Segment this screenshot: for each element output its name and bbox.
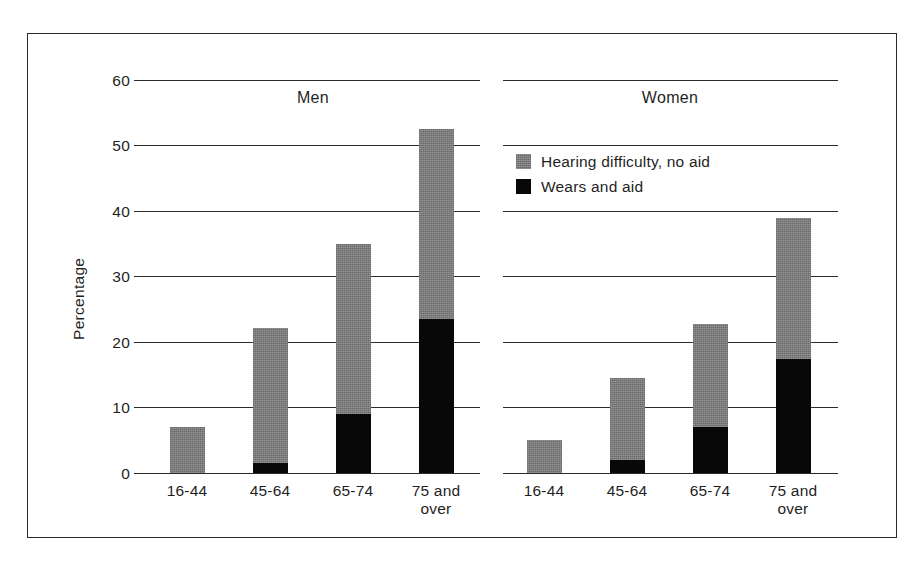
bar-women-65-74 (693, 324, 728, 473)
ytick-stub-30 (134, 276, 146, 277)
bar-segment-wears-aid (693, 427, 728, 473)
legend: Hearing difficulty, no aid Wears and aid (516, 150, 710, 200)
legend-item-no-aid: Hearing difficulty, no aid (516, 150, 710, 173)
bar-women-75-and-over (776, 218, 811, 473)
ytick-stub-60 (134, 80, 146, 81)
bar-segment-wears-aid (336, 414, 371, 473)
ytick-stub-10 (134, 407, 146, 408)
figure: 60 50 40 30 20 10 0 Percentage Me (0, 0, 924, 572)
ytick-label-60: 60 (90, 72, 130, 90)
gridline-men-60 (146, 80, 480, 81)
bar-segment-wears-aid (610, 460, 645, 473)
panel-title-women: Women (590, 89, 750, 107)
legend-swatch-wears-aid-icon (516, 179, 531, 194)
gridline-women-baseline (503, 473, 838, 474)
gridline-men-baseline (146, 473, 480, 474)
bar-men-16-44 (170, 427, 205, 473)
bar-segment-wears-aid (776, 359, 811, 473)
plot-area: 60 50 40 30 20 10 0 Percentage Me (0, 0, 924, 572)
legend-label-wears-aid: Wears and aid (541, 178, 643, 196)
ytick-stub-0 (134, 473, 146, 474)
bar-men-65-74 (336, 244, 371, 473)
bar-segment-no-aid (610, 378, 645, 460)
gridline-women-40 (503, 211, 838, 212)
ytick-stub-40 (134, 211, 146, 212)
ytick-label-10: 10 (90, 399, 130, 417)
bar-segment-no-aid (253, 328, 288, 463)
ytick-label-40: 40 (90, 203, 130, 221)
xtick-label-women-75-and-over: 75 and over (743, 482, 843, 518)
bar-men-45-64 (253, 328, 288, 473)
bar-segment-no-aid (693, 324, 728, 427)
legend-item-wears-aid: Wears and aid (516, 175, 710, 198)
bar-men-75-and-over (419, 129, 454, 473)
ytick-label-20: 20 (90, 334, 130, 352)
bar-women-45-64 (610, 378, 645, 473)
bar-women-16-44 (527, 440, 562, 473)
panel-title-men: Men (233, 89, 393, 107)
bar-segment-no-aid (419, 129, 454, 319)
y-axis-title: Percentage (70, 258, 88, 340)
legend-swatch-no-aid-icon (516, 154, 531, 169)
xtick-label-men-75-and-over: 75 and over (386, 482, 486, 518)
ytick-label-30: 30 (90, 268, 130, 286)
bar-segment-no-aid (527, 440, 562, 473)
gridline-women-50 (503, 145, 838, 146)
gridline-women-60 (503, 80, 838, 81)
bar-segment-no-aid (336, 244, 371, 414)
ytick-label-50: 50 (90, 137, 130, 155)
ytick-stub-50 (134, 145, 146, 146)
bar-segment-no-aid (776, 218, 811, 359)
bar-segment-wears-aid (419, 319, 454, 473)
bar-segment-no-aid (170, 427, 205, 473)
bar-segment-wears-aid (253, 463, 288, 473)
ytick-stub-20 (134, 342, 146, 343)
ytick-label-0: 0 (90, 465, 130, 483)
legend-label-no-aid: Hearing difficulty, no aid (541, 153, 710, 171)
